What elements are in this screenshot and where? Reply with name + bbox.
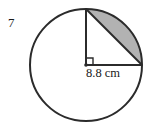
geometry-figure-container: 7 8.8 cm <box>0 0 146 133</box>
radius-dimension-label: 8.8 cm <box>86 67 120 80</box>
circle-diagram <box>0 0 146 133</box>
